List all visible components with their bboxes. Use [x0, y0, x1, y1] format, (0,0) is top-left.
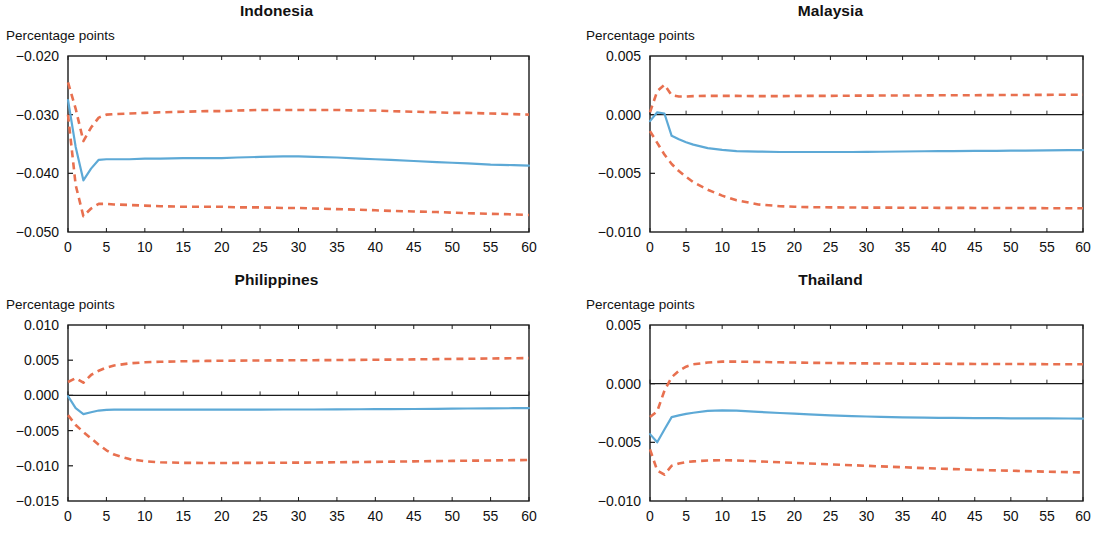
svg-text:20: 20 [787, 508, 803, 524]
svg-text:35: 35 [895, 508, 911, 524]
svg-text:30: 30 [291, 239, 307, 255]
svg-text:45: 45 [967, 508, 983, 524]
svg-text:45: 45 [967, 239, 983, 255]
svg-text:10: 10 [714, 239, 730, 255]
svg-text:0: 0 [646, 508, 654, 524]
svg-text:0.005: 0.005 [606, 48, 641, 64]
svg-text:0.005: 0.005 [606, 317, 641, 333]
svg-text:55: 55 [483, 239, 499, 255]
svg-text:5: 5 [682, 239, 690, 255]
svg-text:30: 30 [859, 239, 875, 255]
svg-text:40: 40 [931, 239, 947, 255]
svg-text:20: 20 [787, 239, 803, 255]
svg-text:−0.020: −0.020 [16, 48, 59, 64]
svg-text:60: 60 [521, 239, 537, 255]
plot-malaysia: 0.0050.000−0.005−0.010051015202530354045… [554, 0, 1107, 269]
plot-indonesia: −0.020−0.030−0.040−0.0500510152025303540… [0, 0, 553, 269]
svg-text:30: 30 [291, 508, 307, 524]
svg-text:25: 25 [823, 239, 839, 255]
svg-text:−0.050: −0.050 [16, 224, 59, 240]
svg-text:0.010: 0.010 [24, 317, 59, 333]
svg-text:25: 25 [823, 508, 839, 524]
plot-philippines: 0.0100.0050.000−0.005−0.010−0.0150510152… [0, 269, 553, 538]
svg-text:15: 15 [750, 239, 766, 255]
svg-text:20: 20 [214, 508, 230, 524]
svg-text:15: 15 [175, 508, 191, 524]
svg-text:40: 40 [368, 508, 384, 524]
svg-text:0.000: 0.000 [24, 387, 59, 403]
chart-panel-malaysia: Malaysia Percentage points 0.0050.000−0.… [554, 0, 1107, 269]
svg-text:0: 0 [64, 508, 72, 524]
chart-panel-thailand: Thailand Percentage points 0.0050.000−0.… [554, 269, 1107, 538]
svg-text:0: 0 [646, 239, 654, 255]
svg-text:10: 10 [137, 508, 153, 524]
svg-text:60: 60 [1075, 239, 1091, 255]
svg-text:5: 5 [103, 508, 111, 524]
impulse-response-figure: Indonesia Percentage points −0.020−0.030… [0, 0, 1107, 538]
svg-text:40: 40 [931, 508, 947, 524]
svg-text:0.005: 0.005 [24, 352, 59, 368]
svg-text:35: 35 [329, 508, 345, 524]
svg-text:60: 60 [521, 508, 537, 524]
svg-text:−0.010: −0.010 [16, 458, 59, 474]
svg-text:40: 40 [368, 239, 384, 255]
svg-text:25: 25 [252, 508, 268, 524]
svg-text:−0.010: −0.010 [598, 224, 641, 240]
svg-text:50: 50 [1003, 508, 1019, 524]
svg-text:5: 5 [682, 508, 690, 524]
svg-text:−0.005: −0.005 [598, 434, 641, 450]
svg-text:50: 50 [444, 508, 460, 524]
svg-text:35: 35 [329, 239, 345, 255]
svg-text:50: 50 [444, 239, 460, 255]
svg-text:60: 60 [1075, 508, 1091, 524]
svg-text:20: 20 [214, 239, 230, 255]
chart-panel-indonesia: Indonesia Percentage points −0.020−0.030… [0, 0, 553, 269]
svg-text:55: 55 [483, 508, 499, 524]
svg-text:15: 15 [175, 239, 191, 255]
svg-text:35: 35 [895, 239, 911, 255]
svg-text:−0.010: −0.010 [598, 493, 641, 509]
svg-text:0: 0 [64, 239, 72, 255]
svg-text:45: 45 [406, 508, 422, 524]
svg-text:−0.040: −0.040 [16, 165, 59, 181]
chart-panel-philippines: Philippines Percentage points 0.0100.005… [0, 269, 553, 538]
svg-text:−0.015: −0.015 [16, 493, 59, 509]
svg-text:−0.005: −0.005 [16, 423, 59, 439]
svg-text:30: 30 [859, 508, 875, 524]
svg-text:10: 10 [137, 239, 153, 255]
svg-text:55: 55 [1039, 239, 1055, 255]
svg-text:25: 25 [252, 239, 268, 255]
svg-text:0.000: 0.000 [606, 107, 641, 123]
svg-text:−0.030: −0.030 [16, 107, 59, 123]
svg-text:−0.005: −0.005 [598, 165, 641, 181]
svg-text:5: 5 [103, 239, 111, 255]
svg-text:55: 55 [1039, 508, 1055, 524]
svg-text:50: 50 [1003, 239, 1019, 255]
plot-thailand: 0.0050.000−0.005−0.010051015202530354045… [554, 269, 1107, 538]
svg-text:10: 10 [714, 508, 730, 524]
svg-text:15: 15 [750, 508, 766, 524]
svg-text:45: 45 [406, 239, 422, 255]
svg-text:0.000: 0.000 [606, 376, 641, 392]
